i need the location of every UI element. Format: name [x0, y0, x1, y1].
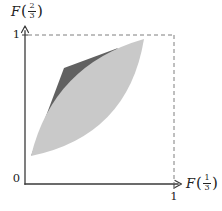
x-axis-label: F(13) [186, 174, 218, 193]
y-axis-label: F(23) [11, 2, 43, 21]
x-axis-label-function: F [186, 177, 196, 190]
x-axis-label-fraction-denominator: 3 [204, 184, 209, 193]
y-axis-label-open-paren: ( [21, 4, 27, 19]
origin-tick-label: 0 [8, 173, 20, 185]
x-axis-max-tick-label: 1 [168, 191, 180, 203]
x-axis-label-open-paren: ( [196, 176, 202, 191]
x-axis-label-fraction: 13 [203, 174, 211, 193]
y-axis-label-close-paren: ) [37, 4, 43, 19]
y-axis-max-tick-label: 1 [8, 29, 20, 41]
y-axis-label-function: F [11, 5, 21, 18]
x-axis-label-close-paren: ) [212, 176, 218, 191]
y-axis-label-fraction-denominator: 3 [29, 12, 34, 21]
feasible-region-lens [31, 39, 144, 156]
math-figure-canvas: F(23) F(13) 1 0 1 [0, 0, 222, 211]
y-axis-label-fraction: 23 [28, 2, 36, 21]
